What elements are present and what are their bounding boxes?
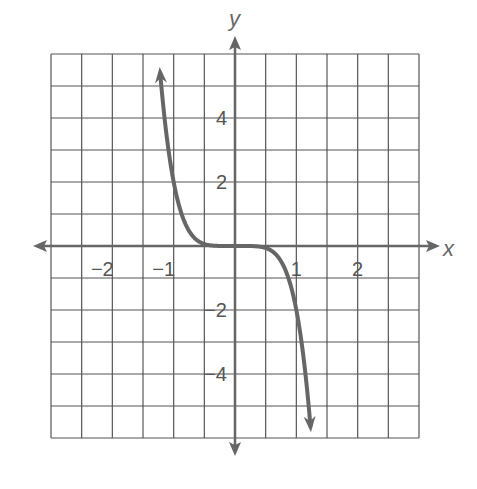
y-tick-label: −4 [204,363,227,385]
y-tick-label: −2 [204,299,227,321]
y-axis-label: y [227,6,242,31]
y-tick-label: 4 [216,107,227,129]
x-tick-label: −2 [91,258,114,280]
x-tick-label: 2 [352,258,363,280]
x-axis-label: x [442,236,455,261]
x-tick-label: 1 [291,258,302,280]
x-tick-label: −1 [152,258,175,280]
y-tick-label: 2 [216,171,227,193]
cubic-graph: −2−11242−2−4 x y [0,0,477,489]
